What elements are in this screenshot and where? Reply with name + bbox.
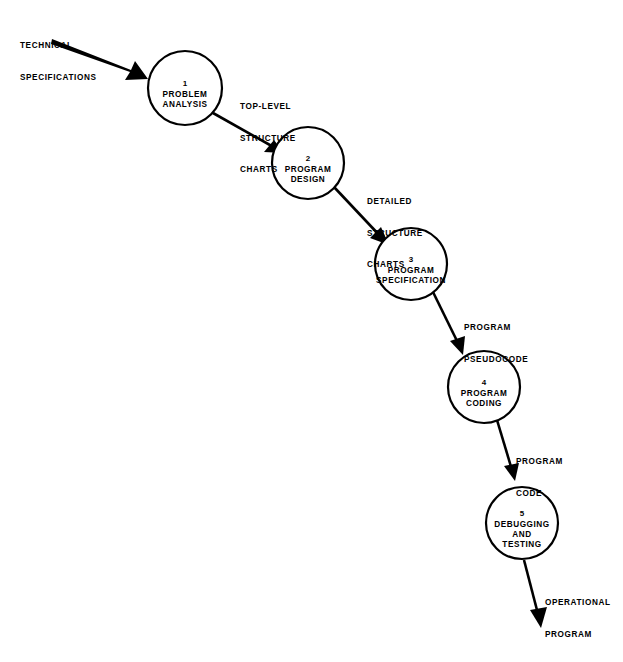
arrow-3-to-4-head bbox=[450, 336, 465, 355]
label-operational-program-line-1: OPERATIONAL bbox=[545, 598, 611, 609]
label-detailed-structure-charts: DETAILED STRUCTURE CHARTS bbox=[367, 176, 423, 292]
label-technical-specifications: TECHNICAL SPECIFICATIONS bbox=[20, 20, 96, 104]
diagram-canvas: 1 PROBLEM ANALYSIS 2 PROGRAM DESIGN 3 PR… bbox=[0, 0, 623, 662]
label-program-pseudocode-line-1: PROGRAM bbox=[464, 323, 528, 334]
label-technical-specifications-line-2: SPECIFICATIONS bbox=[20, 73, 96, 84]
arrow-3-to-4-shaft bbox=[433, 292, 459, 345]
label-detailed-structure-charts-line-2: STRUCTURE bbox=[367, 229, 423, 240]
label-detailed-structure-charts-line-1: DETAILED bbox=[367, 197, 423, 208]
node-2-number: 2 bbox=[306, 154, 311, 163]
node-1-number: 1 bbox=[183, 79, 188, 88]
node-5-label-line-3: TESTING bbox=[502, 540, 541, 549]
label-top-level-structure-charts-line-2: STRUCTURE bbox=[240, 134, 296, 145]
arrow-4-to-5-shaft bbox=[497, 420, 512, 470]
label-program-code-line-1: PROGRAM bbox=[516, 457, 563, 468]
label-top-level-structure-charts: TOP-LEVEL STRUCTURE CHARTS bbox=[240, 81, 296, 197]
node-5-label-line-1: DEBUGGING bbox=[494, 520, 549, 529]
label-detailed-structure-charts-line-3: CHARTS bbox=[367, 260, 423, 271]
label-program-pseudocode-line-2: PSEUDOCODE bbox=[464, 355, 528, 366]
arrow-3-to-4 bbox=[433, 292, 465, 355]
node-1-label-line-2: ANALYSIS bbox=[162, 100, 207, 109]
node-1-label-line-1: PROBLEM bbox=[163, 90, 208, 99]
label-program-pseudocode: PROGRAM PSEUDOCODE bbox=[464, 302, 528, 386]
label-program-code-line-2: CODE bbox=[516, 489, 563, 500]
node-1-problem-analysis[interactable]: 1 PROBLEM ANALYSIS bbox=[148, 51, 222, 125]
arrow-5-to-output-shaft bbox=[524, 560, 538, 614]
node-1-circle[interactable] bbox=[148, 51, 222, 125]
label-operational-program: OPERATIONAL PROGRAM bbox=[545, 577, 611, 661]
label-program-code: PROGRAM CODE bbox=[516, 436, 563, 520]
label-top-level-structure-charts-line-1: TOP-LEVEL bbox=[240, 102, 296, 113]
label-operational-program-line-2: PROGRAM bbox=[545, 630, 611, 641]
node-4-label-line-1: PROGRAM bbox=[461, 389, 508, 398]
label-technical-specifications-line-1: TECHNICAL bbox=[20, 41, 96, 52]
node-4-label-line-2: CODING bbox=[466, 399, 502, 408]
node-5-label-line-2: AND bbox=[512, 530, 531, 539]
arrow-5-to-output bbox=[524, 560, 547, 628]
label-top-level-structure-charts-line-3: CHARTS bbox=[240, 165, 296, 176]
